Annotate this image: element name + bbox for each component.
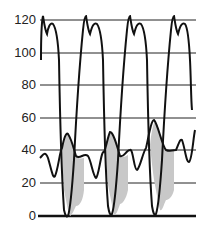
chart: 120 100 80 60 40 20 0	[0, 0, 206, 236]
y-tick-40: 40	[22, 142, 36, 157]
y-tick-100: 100	[14, 45, 36, 60]
y-tick-60: 60	[22, 110, 36, 125]
y-tick-80: 80	[22, 77, 36, 92]
y-tick-20: 20	[22, 175, 36, 190]
y-tick-120: 120	[14, 12, 36, 27]
y-axis-labels: 120 100 80 60 40 20 0	[14, 12, 36, 223]
y-tick-0: 0	[29, 208, 36, 223]
